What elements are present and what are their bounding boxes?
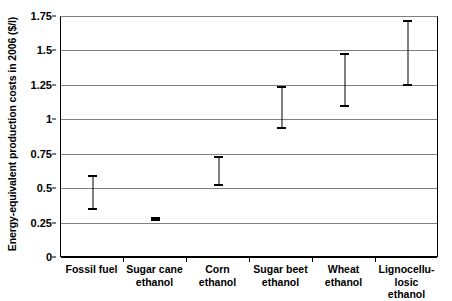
y-axis-tick-mark (52, 16, 56, 17)
x-axis-tick-mark (312, 257, 313, 262)
y-axis-tick-mark (52, 50, 56, 51)
gridline (61, 119, 437, 120)
x-axis-category-label-line: ethanol (312, 276, 375, 289)
y-axis-tick-label: 1.25 (31, 79, 52, 91)
error-bar-cap-upper (88, 175, 97, 177)
gridline (61, 188, 437, 189)
x-axis-category-label-line: ethanol (123, 276, 186, 289)
x-axis-category-label: Fossil fuel (60, 263, 123, 276)
x-axis-category-label-line: ethanol (249, 276, 312, 289)
gridline (61, 50, 437, 51)
error-bar-stem (92, 175, 93, 209)
error-bar-cap-lower (340, 105, 349, 107)
error-bar (403, 20, 412, 86)
x-axis-category-label: Cornethanol (186, 263, 249, 288)
x-axis-category-label: Lignocellu-losic ethanol (375, 263, 438, 301)
error-bar (214, 156, 223, 186)
gridline (61, 154, 437, 155)
x-axis-category-label-line: ethanol (186, 276, 249, 289)
plot-area (60, 16, 438, 257)
error-bar-cap-lower (277, 127, 286, 129)
x-axis-category-label-line: Sugar cane (123, 263, 186, 276)
y-axis-tick-mark (52, 153, 56, 154)
x-axis-category-labels: Fossil fuelSugar caneethanolCornethanolS… (60, 263, 438, 301)
error-bar-cap-lower (88, 208, 97, 210)
y-axis-tick-label: 0.75 (31, 148, 52, 160)
x-axis-tick-mark (186, 257, 187, 262)
y-axis-tick-labels: 00.250.50.7511.251.51.75 (22, 0, 56, 268)
y-axis-tick-label: 0.5 (37, 182, 52, 194)
y-axis-title-text: Energy-equivalent production costs in 20… (6, 17, 18, 251)
error-bar-cap-upper (214, 156, 223, 158)
y-axis-tick-mark (52, 119, 56, 120)
y-axis-tick-mark (52, 222, 56, 223)
error-bar (151, 217, 160, 221)
x-axis-category-label-line: Wheat (312, 263, 375, 276)
error-bar-cap-upper (403, 20, 412, 22)
error-bar-stem (344, 53, 345, 107)
error-bar-cap-lower (151, 219, 160, 221)
x-axis-category-label-line: Lignocellu- (375, 263, 438, 276)
y-axis-tick-label: 1.5 (37, 44, 52, 56)
x-axis-category-label-line: Corn (186, 263, 249, 276)
error-bar-stem (218, 156, 219, 186)
x-axis-category-label: Sugar beetethanol (249, 263, 312, 288)
chart-container: Energy-equivalent production costs in 20… (0, 0, 452, 301)
y-axis-tick-mark (52, 188, 56, 189)
x-axis-category-label: Sugar caneethanol (123, 263, 186, 288)
x-axis-category-label-line: Fossil fuel (60, 263, 123, 276)
x-axis-category-label-line: Sugar beet (249, 263, 312, 276)
y-axis-tick-mark (52, 257, 56, 258)
gridline (61, 223, 437, 224)
y-axis-tick-mark (52, 84, 56, 85)
error-bar-cap-upper (277, 86, 286, 88)
y-axis-title: Energy-equivalent production costs in 20… (0, 0, 24, 268)
error-bar-stem (281, 86, 282, 129)
x-axis-category-label: Wheatethanol (312, 263, 375, 288)
gridline (61, 85, 437, 86)
error-bar (88, 175, 97, 209)
x-axis-tick-mark (249, 257, 250, 262)
y-axis-tick-label: 0.25 (31, 217, 52, 229)
error-bar-cap-lower (214, 184, 223, 186)
y-axis-tick-label: 1.75 (31, 10, 52, 22)
error-bar-stem (407, 20, 408, 86)
error-bar (277, 86, 286, 129)
error-bar (340, 53, 349, 107)
error-bar-cap-lower (403, 84, 412, 86)
error-bar-cap-upper (340, 53, 349, 55)
x-axis-category-label-line: losic ethanol (375, 276, 438, 301)
x-axis-tick-mark (123, 257, 124, 262)
x-axis-tick-mark (375, 257, 376, 262)
